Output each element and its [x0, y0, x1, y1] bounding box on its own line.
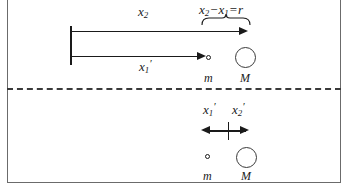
- cm-arrow-head-left-icon: [201, 126, 210, 134]
- label-m-top: m: [204, 72, 213, 84]
- x2-arrow-shaft: [71, 31, 239, 32]
- brace-icon: [201, 14, 251, 26]
- label-M-bottom: M: [241, 170, 251, 182]
- cm-arrow-head-right-icon: [240, 126, 249, 134]
- physics-figure: x2 x2−x1=r x1′ m M x1′ x2′: [0, 0, 348, 189]
- figure-border-left: [7, 0, 8, 183]
- label-x2: x2: [138, 5, 148, 20]
- label-m-bottom: m: [203, 170, 212, 182]
- center-of-mass-tick: [228, 122, 229, 140]
- panel-divider: [7, 88, 341, 90]
- label-M-top: M: [240, 72, 250, 84]
- x1-prime-arrow-shaft: [71, 56, 197, 57]
- small-mass-body-bottom: [205, 154, 210, 159]
- label-x2-prime-bottom: x2′: [232, 101, 245, 118]
- x2-arrow-head-icon: [239, 27, 248, 35]
- x1-prime-arrow-head-icon: [197, 52, 206, 60]
- large-mass-body-bottom: [236, 147, 257, 168]
- large-mass-body-top: [235, 47, 256, 68]
- label-x1-prime-bottom: x1′: [203, 101, 216, 118]
- small-mass-body-top: [206, 55, 211, 60]
- label-x1-prime-top: x1′: [139, 58, 152, 75]
- figure-border-right: [340, 0, 341, 183]
- figure-border-bottom: [7, 182, 341, 183]
